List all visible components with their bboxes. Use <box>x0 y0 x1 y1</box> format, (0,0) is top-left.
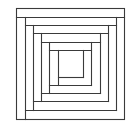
background <box>0 0 126 127</box>
log-cabin-svg: Log cabin quilt block <box>0 0 126 127</box>
log-cabin-diagram: Log cabin quilt block <box>0 0 126 127</box>
